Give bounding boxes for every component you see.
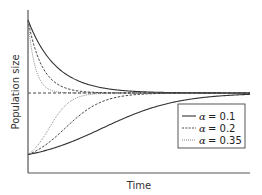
legend-alpha-symbol: α [199, 135, 206, 146]
curve-dotted-decay [28, 20, 250, 93]
curve-solid-decay [28, 20, 250, 93]
y-axis-label: Population size [10, 54, 21, 129]
legend-value: = 0.35 [208, 135, 242, 146]
legend: α = 0.1 α = 0.2 α = 0.35 [178, 104, 245, 148]
legend-value: = 0.1 [208, 111, 235, 122]
curve-dashed-decay [28, 20, 250, 93]
legend-value: = 0.2 [208, 123, 235, 134]
x-axis-label: Time [126, 180, 151, 191]
legend-alpha-symbol: α [199, 111, 206, 122]
population-chart: Time Population size α = 0.1 α = 0.2 α =… [0, 0, 262, 195]
legend-alpha-symbol: α [199, 123, 206, 134]
